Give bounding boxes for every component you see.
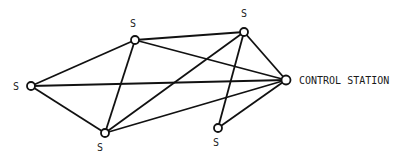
label-s_upper: S — [130, 18, 136, 29]
edge-s_left-s_bottom — [31, 86, 105, 133]
edge-s_bottom-s_topright — [105, 32, 244, 133]
label-s_topright: S — [241, 8, 247, 19]
edge-s_left-control — [31, 80, 286, 86]
diagram-svg: SSSSSCONTROL STATION — [0, 0, 397, 161]
node-s_bottom — [101, 129, 109, 137]
network-diagram: SSSSSCONTROL STATION — [0, 0, 397, 161]
edge-s_upper-s_bottom — [105, 40, 135, 133]
edge-s_bottom-control — [105, 80, 286, 133]
node-s_bottomright — [214, 124, 222, 132]
label-control: CONTROL STATION — [299, 75, 389, 86]
label-s_bottomright: S — [213, 137, 219, 148]
edge-s_topright-s_bottomright — [218, 32, 244, 128]
edge-s_topright-control — [244, 32, 286, 80]
edge-s_upper-s_topright — [135, 32, 244, 40]
node-s_topright — [240, 28, 248, 36]
node-s_upper — [131, 36, 139, 44]
node-s_left — [27, 82, 35, 90]
edge-s_left-s_upper — [31, 40, 135, 86]
label-s_left: S — [13, 81, 19, 92]
edge-s_upper-control — [135, 40, 286, 80]
node-control — [282, 76, 291, 85]
label-s_bottom: S — [97, 142, 103, 153]
